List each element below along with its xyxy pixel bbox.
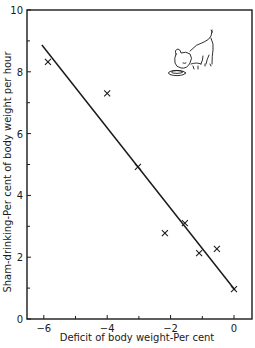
x-tick-label: 0 xyxy=(231,323,237,334)
plot-border xyxy=(27,10,252,319)
data-point-x-marker xyxy=(214,246,220,252)
dog-drinking-icon xyxy=(169,30,214,76)
data-point-x-marker xyxy=(196,250,202,256)
data-point-x-marker xyxy=(104,90,110,96)
scatter-chart: −6−4−20 0246810 Deficit of body weight-P… xyxy=(0,0,255,348)
plot-frame xyxy=(27,10,252,319)
x-tick-label: −6 xyxy=(36,323,51,334)
y-tick-label: 4 xyxy=(17,190,23,201)
data-point-x-marker xyxy=(45,59,51,65)
y-axis-label: Sham-drinking-Per cent of body weight pe… xyxy=(2,51,13,293)
y-tick-label: 0 xyxy=(17,314,23,325)
data-point-x-marker xyxy=(231,286,237,292)
y-tick-label: 6 xyxy=(17,129,23,140)
x-axis-label: Deficit of body weight-Per cent xyxy=(60,332,215,343)
y-tick-label: 2 xyxy=(17,252,23,263)
data-point-x-marker xyxy=(162,230,168,236)
y-axis-ticks: 0246810 xyxy=(10,5,31,325)
y-tick-label: 8 xyxy=(17,67,23,78)
y-tick-label: 10 xyxy=(10,5,23,16)
data-point-x-marker xyxy=(135,164,141,170)
